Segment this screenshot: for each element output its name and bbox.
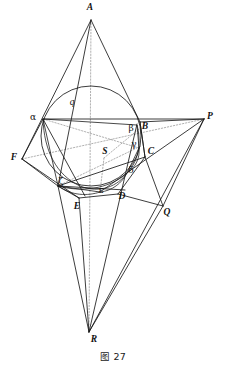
solid-lines (22, 20, 204, 332)
point-label-A: A (87, 3, 93, 13)
point-label-F: F (11, 153, 17, 163)
geometry-drawing (0, 0, 226, 367)
point-label-Q: Q (164, 208, 171, 218)
inscribed-hexagon-path (43, 119, 139, 192)
line-R-B (89, 124, 137, 332)
point-label-E: E (74, 202, 80, 212)
dotted-line-alpha-gamma (43, 119, 139, 148)
line-P-Q (163, 119, 204, 206)
line-Q-C (145, 157, 163, 206)
figure-container: A B C D E F P Q R S α β γ δ ε ζ q 图 27 (0, 0, 226, 367)
point-label-R: R (91, 335, 97, 345)
conic-label-q: q (70, 98, 75, 108)
point-label-gamma: γ (131, 140, 136, 149)
line-Q-R (89, 206, 163, 332)
line-A-B (91, 20, 140, 122)
figure-caption: 图 27 (0, 349, 226, 363)
line-F-alpha (22, 119, 43, 159)
point-label-D: D (119, 192, 126, 202)
point-label-beta: β (128, 124, 133, 133)
line-E-R (79, 198, 89, 332)
point-label-zeta: ζ (59, 177, 64, 186)
point-label-B: B (142, 122, 148, 132)
inscribed-hexagon (43, 119, 139, 192)
point-label-epsilon: ε (99, 186, 104, 195)
point-label-P: P (207, 112, 213, 122)
point-label-S: S (102, 147, 107, 157)
point-label-C: C (148, 147, 154, 157)
arc-alpha-delta-curve (43, 119, 127, 189)
line-A-F (22, 20, 91, 159)
line-P-C (128, 119, 204, 172)
line-P-B (140, 119, 204, 122)
point-label-delta: δ (128, 166, 133, 175)
point-label-alpha: α (30, 113, 36, 122)
